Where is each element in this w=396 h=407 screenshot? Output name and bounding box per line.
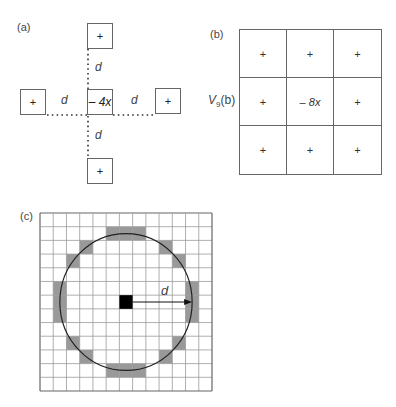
center-pixel [119,295,132,309]
circular-neighborhood-grid [0,0,396,407]
radius-label: d [161,283,168,298]
